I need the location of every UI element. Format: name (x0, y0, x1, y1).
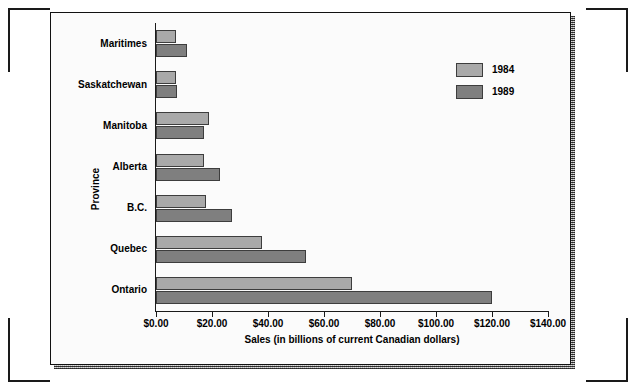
x-axis-tick-label: $60.00 (309, 319, 340, 329)
x-axis-tick-label: $140.00 (530, 319, 566, 329)
legend-item-1984: 1984 (456, 63, 514, 77)
bar-group: Maritimes (156, 30, 548, 57)
category-label: Saskatchewan (78, 80, 147, 90)
crop-mark-top-left (8, 8, 50, 72)
x-axis-tick-label: $20.00 (197, 319, 228, 329)
x-axis-tick-label: $100.00 (418, 319, 454, 329)
legend-label-1989: 1989 (492, 87, 514, 97)
category-label: Quebec (110, 244, 147, 254)
x-axis-tick (492, 311, 493, 317)
y-axis-title: Province (91, 167, 101, 209)
bar-1989-alberta (156, 168, 220, 181)
x-axis-tick (436, 311, 437, 317)
chart-legend: 19841989 (456, 63, 514, 107)
crop-mark-bottom-left (8, 318, 50, 382)
bar-1989-quebec (156, 250, 306, 263)
legend-label-1984: 1984 (492, 65, 514, 75)
x-axis-tick (212, 311, 213, 317)
bar-1989-ontario (156, 291, 492, 304)
category-label: Maritimes (100, 39, 147, 49)
x-axis-tick (156, 311, 157, 317)
bar-1989-saskatchewan (156, 85, 177, 98)
crop-mark-bottom-right (586, 318, 628, 382)
crop-mark-top-right (586, 8, 628, 72)
x-axis-title: Sales (in billions of current Canadian d… (156, 335, 548, 345)
category-label: Alberta (113, 162, 147, 172)
bar-1984-quebec (156, 236, 262, 249)
chart-container: Province Sales (in billions of current C… (50, 12, 571, 365)
legend-swatch-1989 (456, 85, 483, 99)
bar-1989-maritimes (156, 44, 187, 57)
x-axis-tick-label: $40.00 (253, 319, 284, 329)
x-axis-tick-label: $80.00 (365, 319, 396, 329)
x-axis-tick-label: $0.00 (143, 319, 168, 329)
bar-1984-saskatchewan (156, 71, 176, 84)
x-axis-tick (324, 311, 325, 317)
bar-group: Quebec (156, 236, 548, 263)
bar-1984-maritimes (156, 30, 176, 43)
x-axis-tick (268, 311, 269, 317)
bar-1984-b-c (156, 195, 206, 208)
legend-swatch-1984 (456, 63, 483, 77)
bar-group: Alberta (156, 154, 548, 181)
bar-group: Ontario (156, 277, 548, 304)
category-label: Ontario (111, 285, 147, 295)
bar-1989-b-c (156, 209, 232, 222)
x-axis-tick-label: $120.00 (474, 319, 510, 329)
x-axis-tick (548, 311, 549, 317)
bar-1984-alberta (156, 154, 204, 167)
bar-group: B.C. (156, 195, 548, 222)
x-axis-tick (380, 311, 381, 317)
category-label: Manitoba (103, 121, 147, 131)
bar-1984-manitoba (156, 112, 209, 125)
bar-1984-ontario (156, 277, 352, 290)
legend-item-1989: 1989 (456, 85, 514, 99)
category-label: B.C. (127, 203, 147, 213)
bar-1989-manitoba (156, 126, 204, 139)
bar-group: Manitoba (156, 112, 548, 139)
